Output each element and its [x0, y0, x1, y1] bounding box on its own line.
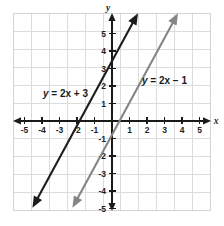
- y-tick-label: -5: [98, 204, 106, 214]
- y-tick-label: 2: [101, 81, 106, 91]
- x-tick-label: 1: [127, 125, 132, 135]
- y-tick-label: -3: [98, 169, 106, 179]
- y-tick-label: 5: [101, 29, 106, 39]
- x-tick-label: 2: [145, 125, 150, 135]
- y-tick-label: 4: [101, 46, 106, 56]
- coordinate-plane-svg: -5 -4 -3 -2 -1 1 2 3 4 5 5 4 3 2 1 -1 -2…: [0, 0, 224, 226]
- y-tick-label: -4: [98, 186, 106, 196]
- x-axis-label: x: [213, 116, 219, 126]
- x-tick-label: -3: [56, 125, 64, 135]
- y-axis-label: y: [105, 3, 111, 13]
- x-tick-label: 4: [180, 125, 185, 135]
- x-tick-label: -4: [38, 125, 46, 135]
- equation-label-left: y = 2x + 3: [42, 88, 88, 99]
- equation-label-right: y = 2x − 1: [141, 75, 187, 86]
- y-tick-label: -1: [98, 134, 106, 144]
- x-tick-label: -1: [91, 125, 99, 135]
- x-tick-label: 3: [162, 125, 167, 135]
- x-tick-label: -5: [21, 125, 29, 135]
- y-tick-label: 1: [101, 99, 106, 109]
- x-tick-label: 5: [197, 125, 202, 135]
- graph-figure: -5 -4 -3 -2 -1 1 2 3 4 5 5 4 3 2 1 -1 -2…: [0, 0, 224, 226]
